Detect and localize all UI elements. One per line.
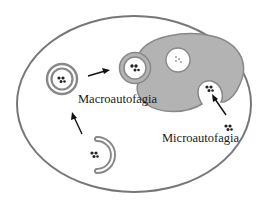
lysosome-vesicle bbox=[166, 48, 190, 72]
arrow-fusion bbox=[88, 68, 110, 76]
cargo-icon bbox=[90, 151, 98, 158]
microautophagy-label: Microautofagia bbox=[162, 131, 239, 146]
micro-invagination-cargo bbox=[205, 85, 213, 92]
macroautophagy-label: Macroautofagia bbox=[78, 92, 157, 107]
autophagosome bbox=[47, 64, 77, 94]
cytoplasmic-cargo-icon bbox=[224, 124, 232, 131]
arrow-macro bbox=[71, 112, 82, 134]
autolysosome bbox=[120, 53, 151, 84]
phagophore bbox=[90, 139, 113, 171]
